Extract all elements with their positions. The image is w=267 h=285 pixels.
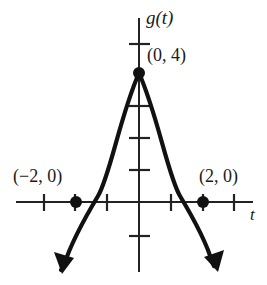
right-root-point-label: (2, 0): [199, 167, 238, 185]
left-root-point-label: (−2, 0): [13, 167, 62, 185]
x-axis-label: t: [250, 206, 255, 223]
y-axis-label: g(t): [146, 8, 173, 27]
point-root-minus2-0: [70, 196, 82, 208]
parabola-graph-figure: g(t) (0, 4) (−2, 0) (2, 0) t: [0, 0, 267, 285]
point-root-2-0: [197, 196, 209, 208]
graph-canvas: [0, 0, 267, 285]
point-vertex-0-4: [133, 67, 145, 79]
parabola-curve: [61, 73, 214, 270]
left-arrowhead: [54, 252, 74, 274]
vertex-point-label: (0, 4): [147, 46, 186, 64]
